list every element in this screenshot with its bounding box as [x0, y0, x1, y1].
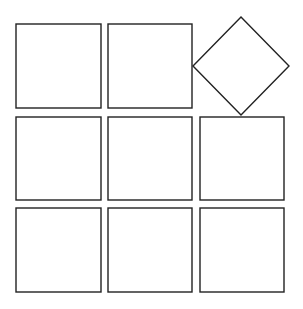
- square-r2c2: [108, 117, 192, 200]
- square-grid-diagram: [0, 0, 303, 309]
- square-r3c2: [108, 208, 192, 292]
- rotated-square-diamond: [193, 17, 289, 115]
- square-r3c3: [200, 208, 284, 292]
- square-r1c2: [108, 24, 192, 108]
- square-r2c3: [200, 117, 284, 200]
- square-r3c1: [16, 208, 101, 292]
- square-r2c1: [16, 117, 101, 200]
- shapes-group: [16, 17, 289, 292]
- square-r1c1: [16, 24, 101, 108]
